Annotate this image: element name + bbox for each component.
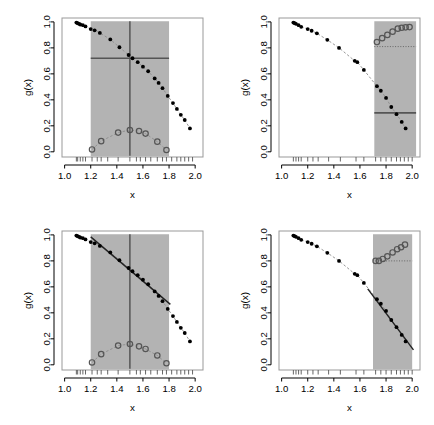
data-point-filled [389, 318, 393, 322]
data-point-filled [157, 294, 161, 298]
data-point-filled [395, 112, 399, 116]
data-point-filled [146, 69, 150, 73]
data-point-filled [93, 28, 97, 32]
x-tick-label: 1.4 [110, 170, 124, 181]
y-tick-label: 0.4 [41, 306, 52, 320]
data-point-filled [127, 266, 131, 270]
data-point-filled [315, 31, 319, 35]
x-tick-label: 1.2 [301, 383, 314, 394]
data-point-filled [161, 299, 165, 303]
y-tick-label: 0.2 [41, 332, 52, 345]
data-point-filled [315, 244, 319, 248]
x-tick-label: 1.6 [136, 170, 149, 181]
x-tick-label: 1.0 [275, 383, 288, 394]
data-point-filled [136, 273, 140, 277]
x-tick-label: 2.0 [405, 383, 418, 394]
x-tick-label: 1.6 [136, 383, 149, 394]
data-point-filled [306, 27, 310, 31]
data-point-filled [131, 269, 135, 273]
x-axis-title: x [130, 402, 135, 413]
data-point-filled [389, 105, 393, 109]
data-point-filled [98, 31, 102, 35]
y-tick-label: 0.0 [41, 145, 52, 158]
y-tick-label: 0.8 [41, 41, 52, 54]
data-point-filled [166, 94, 170, 98]
x-tick-label: 1.2 [84, 170, 97, 181]
x-tick-label: 2.0 [188, 170, 201, 181]
data-point-filled [161, 86, 165, 90]
x-tick-label: 1.8 [162, 383, 175, 394]
data-point-filled [337, 259, 341, 263]
y-tick-label: 0.6 [258, 280, 269, 293]
data-point-filled [136, 60, 140, 64]
panel-plot-area: 1.01.21.41.61.82.0x0.00.20.40.60.81.0g(x… [217, 213, 434, 425]
data-point-filled [131, 56, 135, 60]
x-tick-label: 1.0 [275, 170, 288, 181]
y-tick-label: 1.0 [258, 15, 269, 28]
x-tick-label: 1.8 [379, 383, 392, 394]
data-point-filled [379, 302, 383, 306]
y-tick-label: 0.2 [258, 332, 269, 345]
data-point-filled [175, 107, 179, 111]
data-point-filled [384, 96, 388, 100]
data-point-filled [362, 68, 366, 72]
shaded-region [374, 21, 416, 156]
data-point-filled [355, 60, 359, 64]
panel-plot-area: 1.01.21.41.61.82.0x0.00.20.40.60.81.0g(x… [217, 0, 434, 212]
y-tick-label: 0.8 [258, 254, 269, 267]
data-point-filled [188, 340, 192, 344]
data-point-filled [188, 127, 192, 131]
data-point-filled [299, 238, 303, 242]
y-axis-title: g(x) [22, 292, 33, 309]
y-tick-label: 0.6 [41, 280, 52, 293]
data-point-filled [379, 89, 383, 93]
y-axis-title: g(x) [239, 79, 250, 96]
x-tick-label: 1.4 [327, 383, 341, 394]
y-axis-title: g(x) [22, 79, 33, 96]
data-point-filled [325, 251, 329, 255]
x-axis-title: x [347, 402, 352, 413]
x-tick-label: 1.6 [353, 383, 366, 394]
data-point-filled [171, 101, 175, 105]
x-tick-label: 1.8 [379, 170, 392, 181]
y-tick-label: 0.4 [258, 93, 269, 107]
panel-plot-area: 1.01.21.41.61.82.0x0.00.20.40.60.81.0g(x… [0, 0, 217, 212]
panel-plot-area: 1.01.21.41.61.82.0x0.00.20.40.60.81.0g(x… [0, 213, 217, 425]
y-tick-label: 0.4 [258, 306, 269, 320]
data-point-filled [108, 251, 112, 255]
x-tick-label: 1.0 [58, 383, 71, 394]
x-tick-label: 1.6 [353, 170, 366, 181]
x-tick-label: 2.0 [405, 170, 418, 181]
y-tick-label: 0.6 [258, 67, 269, 80]
x-tick-label: 2.0 [188, 383, 201, 394]
data-point-filled [362, 281, 366, 285]
y-tick-label: 1.0 [41, 228, 52, 241]
data-point-filled [175, 320, 179, 324]
data-point-filled [400, 120, 404, 124]
y-tick-label: 0.0 [41, 358, 52, 371]
y-tick-label: 0.2 [41, 119, 52, 132]
x-axis-title: x [347, 189, 352, 200]
data-point-filled [93, 241, 97, 245]
data-point-filled [118, 45, 122, 49]
data-point-filled [384, 309, 388, 313]
data-point-filled [395, 325, 399, 329]
x-axis-title: x [130, 189, 135, 200]
data-point-filled [400, 333, 404, 337]
data-point-filled [306, 240, 310, 244]
data-point-filled [89, 27, 93, 31]
data-point-filled [166, 307, 170, 311]
data-point-filled [404, 127, 408, 131]
y-tick-label: 0.8 [41, 254, 52, 267]
data-point-filled [179, 113, 183, 117]
data-point-filled [118, 258, 122, 262]
panel-top-left: 1.01.21.41.61.82.0x0.00.20.40.60.81.0g(x… [0, 0, 217, 212]
data-point-filled [146, 282, 150, 286]
data-point-filled [153, 290, 157, 294]
data-point-filled [404, 340, 408, 344]
data-point-filled [179, 326, 183, 330]
data-point-filled [157, 81, 161, 85]
y-tick-label: 0.2 [258, 119, 269, 132]
y-tick-label: 1.0 [258, 228, 269, 241]
data-point-filled [310, 29, 314, 33]
